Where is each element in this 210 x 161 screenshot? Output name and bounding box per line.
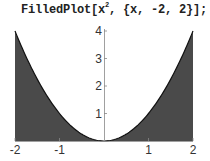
y-tick-label: 2 xyxy=(95,79,102,93)
x-tick-label: 1 xyxy=(145,143,152,157)
x-tick-label: 2 xyxy=(190,143,197,157)
x-tick-label: -2 xyxy=(10,143,21,157)
y-tick-label: 4 xyxy=(95,24,102,38)
x-tick-label: -1 xyxy=(54,143,65,157)
y-tick-label: 1 xyxy=(95,107,102,121)
y-tick-label: 3 xyxy=(95,52,102,66)
filled-plot: -2-1121234 xyxy=(0,0,210,161)
